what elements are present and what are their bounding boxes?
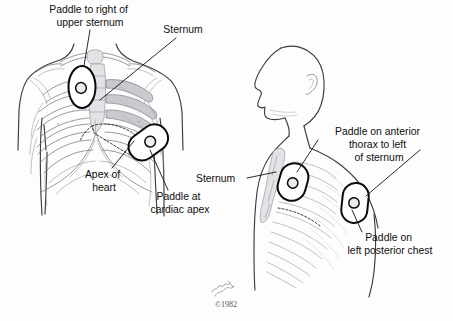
copyright-notice: ©1982 (215, 300, 237, 309)
label-sternum-lateral: Sternum (196, 173, 235, 184)
illustration-canvas: Paddle to right of upper sternum Sternum… (0, 0, 453, 321)
label-sternum-anterior: Sternum (163, 24, 202, 35)
paddle-upper-right-sternum[interactable] (69, 66, 96, 108)
medical-illustration: Paddle to right of upper sternum Sternum… (0, 0, 453, 321)
paddle-posterior-left-chest[interactable] (340, 182, 370, 224)
